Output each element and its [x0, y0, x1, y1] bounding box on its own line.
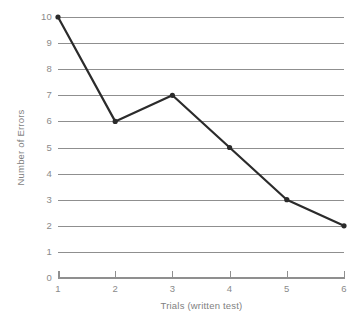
data-point-marker [55, 14, 60, 19]
line-chart: 012345678910 123456 Number of Errors Tri… [0, 0, 364, 328]
data-point-marker [227, 145, 232, 150]
y-axis-title: Number of Errors [14, 17, 28, 278]
data-point-marker [113, 119, 118, 124]
series-line [58, 17, 344, 226]
data-series-errors [0, 0, 364, 328]
data-point-marker [284, 197, 289, 202]
data-point-marker [341, 223, 346, 228]
x-axis-title: Trials (written test) [58, 300, 345, 312]
data-point-marker [170, 93, 175, 98]
